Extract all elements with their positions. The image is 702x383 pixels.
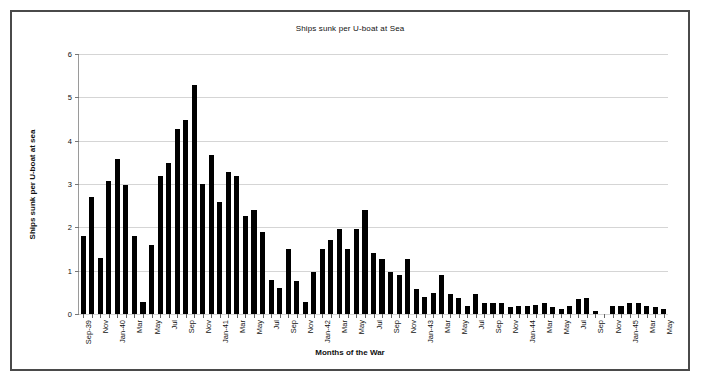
bar: [217, 202, 222, 314]
x-tick-mark: [476, 314, 477, 318]
bar: [226, 172, 231, 314]
bar: [115, 159, 120, 314]
x-tick-label: Mar: [341, 320, 349, 333]
bar: [473, 294, 478, 314]
bar: [490, 303, 495, 314]
x-tick-mark: [587, 314, 588, 318]
y-tick-label: 1: [68, 266, 72, 275]
chart-title: Ships sunk per U-boat at Sea: [12, 24, 688, 33]
bar: [149, 245, 154, 314]
bar: [328, 240, 333, 314]
x-tick-label: Mar: [136, 320, 144, 333]
x-tick-mark: [408, 314, 409, 318]
bar: [98, 258, 103, 314]
x-tick-label: Jul: [478, 320, 486, 330]
x-tick-mark: [450, 314, 451, 318]
bar: [448, 294, 453, 314]
bar: [158, 176, 163, 314]
x-tick-label: Nov: [512, 320, 520, 333]
bar: [405, 259, 410, 314]
bar: [251, 210, 256, 314]
x-tick-mark: [561, 314, 562, 318]
bar: [132, 236, 137, 314]
x-tick-mark: [160, 314, 161, 318]
y-tick-label: 6: [68, 50, 72, 59]
x-tick-label: May: [154, 320, 162, 334]
y-axis-title-label: Ships sunk per U-boat at sea: [29, 129, 38, 239]
x-axis-title: Months of the War: [12, 348, 688, 357]
x-tick-label: Jan-42: [324, 320, 332, 343]
x-tick-mark: [510, 314, 511, 318]
x-tick-label: Mar: [444, 320, 452, 333]
x-tick-label: May: [461, 320, 469, 334]
bar: [610, 306, 615, 314]
x-tick-mark: [134, 314, 135, 318]
bar: [576, 299, 581, 314]
x-tick-label: Jul: [171, 320, 179, 330]
x-tick-mark: [493, 314, 494, 318]
x-tick-label: Jul: [580, 320, 588, 330]
x-tick-mark: [425, 314, 426, 318]
bar: [499, 303, 504, 314]
x-tick-mark: [109, 314, 110, 318]
x-tick-label: Mar: [649, 320, 657, 333]
y-tick-label: 2: [68, 223, 72, 232]
x-tick-label: Nov: [615, 320, 623, 333]
x-tick-mark: [211, 314, 212, 318]
x-tick-label: Nov: [410, 320, 418, 333]
x-tick-mark: [305, 314, 306, 318]
x-tick-mark: [467, 314, 468, 318]
bar: [243, 216, 248, 314]
x-tick-mark: [391, 314, 392, 318]
x-tick-mark: [322, 314, 323, 318]
x-tick-label: Sep: [393, 320, 401, 333]
y-axis-title: Ships sunk per U-boat at sea: [26, 54, 40, 314]
x-axis-ticks: [79, 314, 668, 319]
bar: [234, 176, 239, 314]
x-tick-mark: [271, 314, 272, 318]
x-tick-mark: [143, 314, 144, 318]
bar: [81, 236, 86, 314]
x-tick-mark: [595, 314, 596, 318]
bar: [277, 288, 282, 314]
x-tick-mark: [126, 314, 127, 318]
x-tick-mark: [220, 314, 221, 318]
plot-area: 0123456: [78, 54, 668, 315]
x-tick-mark: [459, 314, 460, 318]
x-tick-mark: [169, 314, 170, 318]
x-tick-mark: [416, 314, 417, 318]
x-tick-mark: [638, 314, 639, 318]
bar: [388, 272, 393, 314]
x-tick-mark: [374, 314, 375, 318]
x-tick-mark: [578, 314, 579, 318]
x-tick-mark: [356, 314, 357, 318]
x-tick-mark: [553, 314, 554, 318]
bar: [542, 303, 547, 314]
bar: [525, 306, 530, 314]
x-tick-mark: [604, 314, 605, 318]
bar: [362, 210, 367, 314]
x-tick-mark: [314, 314, 315, 318]
x-tick-mark: [331, 314, 332, 318]
x-tick-mark: [194, 314, 195, 318]
bar: [106, 181, 111, 314]
x-tick-mark: [245, 314, 246, 318]
x-tick-mark: [280, 314, 281, 318]
x-axis-labels: Sep-39NovJan-40MarMayJulSepNovJan-41MarM…: [78, 320, 667, 366]
x-tick-label: Sep: [290, 320, 298, 333]
x-tick-mark: [536, 314, 537, 318]
x-tick-label: Nov: [102, 320, 110, 333]
bar: [465, 306, 470, 314]
chart-frame: Ships sunk per U-boat at Sea Ships sunk …: [10, 10, 690, 371]
bar: [183, 120, 188, 314]
x-tick-label: Nov: [307, 320, 315, 333]
x-tick-mark: [382, 314, 383, 318]
bar: [482, 303, 487, 314]
bar: [269, 280, 274, 314]
x-tick-mark: [263, 314, 264, 318]
bar: [397, 275, 402, 314]
x-tick-label: Sep: [188, 320, 196, 333]
x-tick-label: Mar: [546, 320, 554, 333]
bar: [508, 307, 513, 314]
x-tick-mark: [297, 314, 298, 318]
